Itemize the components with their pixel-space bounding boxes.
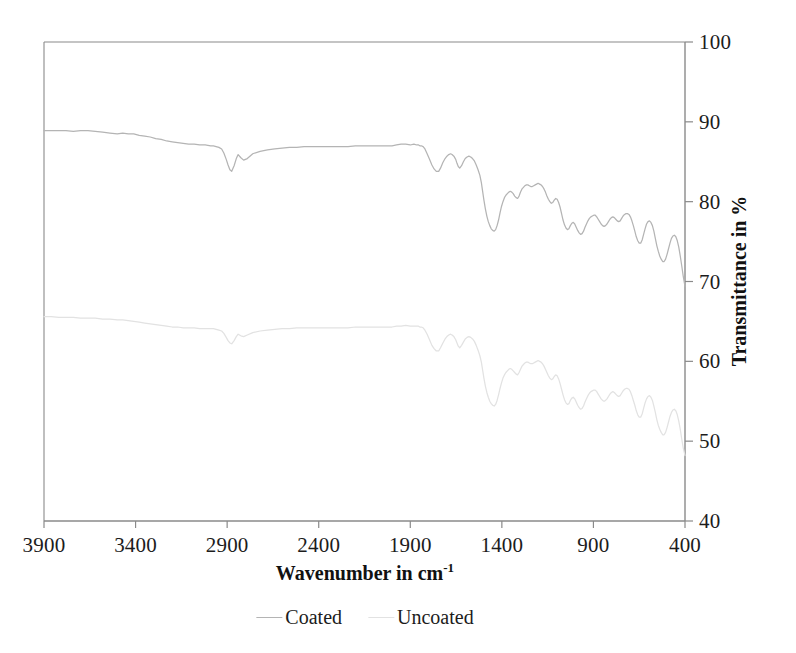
y-axis-title: Transmittance in % [728,196,751,367]
x-tick-label-3900: 3900 [23,533,66,558]
legend-swatch-uncoated [368,617,394,618]
legend-swatch-coated [256,617,282,618]
x-tick-label-900: 900 [577,533,609,558]
x-tick-label-1900: 1900 [389,533,432,558]
legend-item-uncoated[interactable]: Uncoated [368,606,474,629]
y-tick-label-60: 60 [699,349,720,374]
series-line-uncoated [44,317,685,456]
series-line-coated [44,131,685,287]
x-tick-label-2900: 2900 [206,533,249,558]
x-axis-title: Wavenumber in cm-1 [276,560,454,585]
x-tick-label-1400: 1400 [480,533,523,558]
y-tick-label-50: 50 [699,429,720,454]
y-tick-label-90: 90 [699,109,720,134]
legend-item-coated[interactable]: Coated [256,606,342,629]
legend-label-uncoated: Uncoated [397,606,474,629]
x-axis-title-superscript: -1 [443,560,454,575]
legend-label-coated: Coated [285,606,342,629]
y-tick-label-100: 100 [699,30,731,55]
y-tick-label-80: 80 [699,189,720,214]
series-group [44,131,685,456]
chart-legend: CoatedUncoated [256,606,473,629]
y-tick-label-40: 40 [699,509,720,534]
y-tick-label-70: 70 [699,269,720,294]
ftir-spectrum-figure: 390034002900240019001400900400 405060708… [0,0,796,653]
x-tick-label-3400: 3400 [114,533,157,558]
x-tick-label-2400: 2400 [297,533,340,558]
x-axis-title-base: Wavenumber in cm [276,562,443,584]
axes-group [44,42,693,528]
x-tick-label-400: 400 [669,533,701,558]
